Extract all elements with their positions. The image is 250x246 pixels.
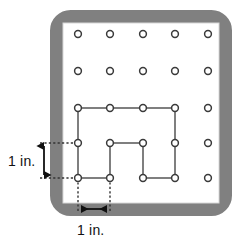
peg [140,68,147,75]
geoboard-canvas [0,0,250,246]
peg [205,175,212,182]
peg [205,140,212,147]
peg [205,105,212,112]
peg [107,31,114,38]
geoboard-figure: 1 in. 1 in. [0,0,250,246]
vertical-measure-label: 1 in. [8,153,35,169]
peg [172,105,179,112]
peg [107,68,114,75]
peg [172,68,179,75]
peg [172,31,179,38]
peg [140,105,147,112]
peg [205,31,212,38]
peg [140,31,147,38]
peg [75,31,82,38]
peg [107,105,114,112]
peg [140,175,147,182]
peg [172,140,179,147]
peg [75,68,82,75]
peg [107,140,114,147]
peg [75,175,82,182]
peg [205,68,212,75]
peg [140,140,147,147]
horizontal-measure-label: 1 in. [77,222,104,238]
peg [107,175,114,182]
peg [75,105,82,112]
peg [75,140,82,147]
peg [172,175,179,182]
